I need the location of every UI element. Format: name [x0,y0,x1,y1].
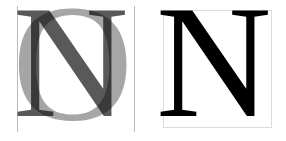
foreground-glyph-n: N [13,0,129,141]
figure-root: O N N [0,0,286,141]
solo-glyph-n: N [156,0,272,141]
overlaid-glyphs-panel: O N [0,0,143,141]
right-sidebearing-guide-line [134,6,135,132]
single-glyph-panel: N [143,0,286,141]
